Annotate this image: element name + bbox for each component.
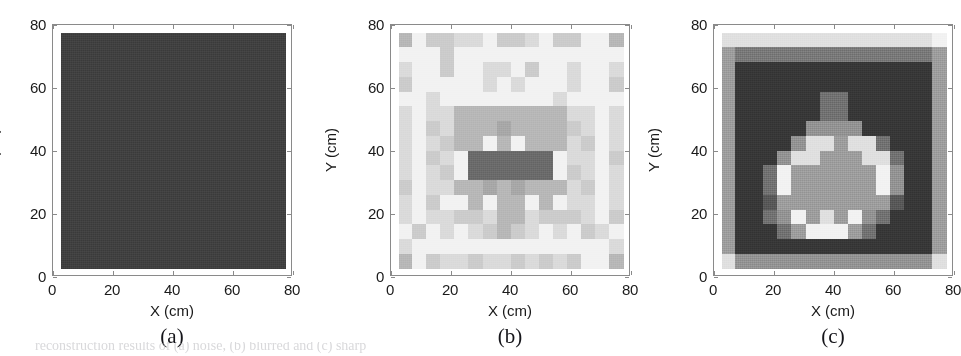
x-tick [571, 25, 572, 29]
heatmap-cell [567, 210, 582, 225]
heatmap-cell [932, 224, 946, 239]
heatmap-cell [890, 62, 905, 77]
heatmap-cell [777, 195, 792, 210]
heatmap-cell [862, 239, 877, 254]
heatmap-cell [497, 121, 512, 136]
heatmap-cell [791, 210, 806, 225]
heatmap-cell [468, 92, 483, 107]
heatmap-cell [862, 180, 877, 195]
heatmap-cell [412, 165, 427, 180]
heatmap-cell [581, 106, 596, 121]
heatmap-cell [932, 106, 946, 121]
heatmap-cell [932, 77, 946, 92]
heatmap-cell [595, 180, 610, 195]
heatmap-cell [848, 180, 863, 195]
heatmap-cell [609, 106, 623, 121]
heatmap-cell [412, 239, 427, 254]
heatmap-cell [525, 195, 540, 210]
x-tick [571, 271, 572, 275]
heatmap-cell [483, 136, 498, 151]
heatmap-cell [722, 47, 736, 62]
heatmap-cell [735, 33, 750, 48]
heatmap-cell [777, 224, 792, 239]
heatmap-cell [426, 77, 441, 92]
heatmap-cell [806, 77, 821, 92]
heatmap-cell [763, 165, 778, 180]
heatmap-cell [426, 195, 441, 210]
heatmap-cell [890, 224, 905, 239]
heatmap-cell [525, 33, 540, 48]
heatmap-cell [820, 224, 835, 239]
y-tick [391, 214, 395, 215]
heatmap-cell [412, 77, 427, 92]
heatmap-cell [777, 254, 792, 269]
heatmap-cell [749, 62, 764, 77]
x-tick [293, 271, 294, 275]
heatmap-cell [468, 239, 483, 254]
heatmap-cell [848, 210, 863, 225]
heatmap-cell [918, 210, 933, 225]
heatmap-cell [454, 239, 469, 254]
heatmap-cell [806, 106, 821, 121]
heatmap-cell [834, 224, 849, 239]
y-tick-label: 0 [681, 268, 707, 285]
heatmap-cell [454, 254, 469, 269]
heatmap-cell [525, 210, 540, 225]
heatmap-cell [440, 121, 455, 136]
heatmap-cell [412, 195, 427, 210]
heatmap-cell [609, 92, 623, 107]
x-tick [391, 271, 392, 275]
heatmap-cell [497, 62, 512, 77]
heatmap-cell [820, 136, 835, 151]
heatmap-cell [749, 180, 764, 195]
heatmap-cell [834, 92, 849, 107]
heatmap-cell [735, 136, 750, 151]
heatmap-cell [525, 151, 540, 166]
heatmap-cell [820, 210, 835, 225]
heatmap-cell [791, 254, 806, 269]
heatmap-cell [511, 224, 526, 239]
heatmap-cell [595, 165, 610, 180]
heatmap-cell [426, 180, 441, 195]
heatmap-cell [862, 195, 877, 210]
heatmap-cell [497, 180, 512, 195]
heatmap-cell [777, 62, 792, 77]
heatmap-cell [763, 121, 778, 136]
heatmap-a [61, 33, 286, 269]
heatmap-cell [412, 47, 427, 62]
x-tick [894, 271, 895, 275]
heatmap-cell [890, 47, 905, 62]
x-tick [113, 25, 114, 29]
y-tick [625, 88, 629, 89]
heatmap-cell [399, 180, 413, 195]
heatmap-cell [763, 92, 778, 107]
heatmap-cell [497, 151, 512, 166]
heatmap-cell [876, 254, 891, 269]
heatmap-cell [791, 33, 806, 48]
heatmap-cell [749, 210, 764, 225]
heatmap-cell [595, 77, 610, 92]
heatmap-cell [609, 239, 623, 254]
heatmap-cell [399, 239, 413, 254]
heatmap-cell [777, 77, 792, 92]
heatmap-cell [735, 195, 750, 210]
heatmap-cell [791, 180, 806, 195]
heatmap-cell [426, 254, 441, 269]
x-tick [511, 25, 512, 29]
heatmap-cell [412, 136, 427, 151]
heatmap-cell [483, 62, 498, 77]
heatmap-cell [763, 210, 778, 225]
heatmap-cell [932, 210, 946, 225]
heatmap-cell [609, 47, 623, 62]
heatmap-cell [932, 121, 946, 136]
heatmap-cell [876, 62, 891, 77]
heatmap-cell [918, 195, 933, 210]
heatmap-cell [468, 121, 483, 136]
heatmap-cell [539, 180, 554, 195]
heatmap-cell [820, 77, 835, 92]
heatmap-cell [483, 92, 498, 107]
heatmap-cell [904, 77, 919, 92]
x-tick-label: 40 [825, 281, 841, 298]
heatmap-cell [399, 254, 413, 269]
heatmap-cell [918, 224, 933, 239]
